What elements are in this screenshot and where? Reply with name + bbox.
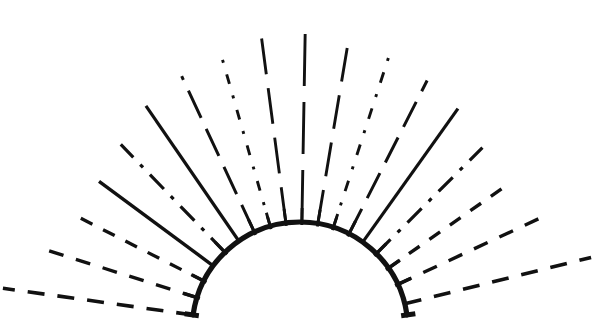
tick-left-end <box>185 314 199 316</box>
tick-right-end <box>401 314 415 316</box>
radial-line-style-fan <box>0 0 593 320</box>
figure-canvas <box>0 0 593 320</box>
figure-background <box>0 0 593 320</box>
